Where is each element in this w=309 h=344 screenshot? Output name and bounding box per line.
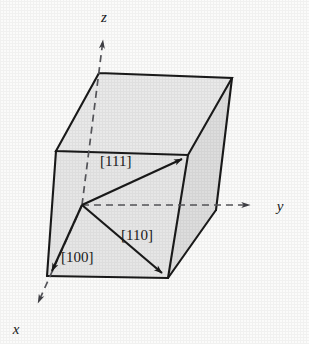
cube-solid bbox=[47, 73, 232, 278]
label-axis-z: z bbox=[100, 9, 107, 25]
label-direction-100: [100] bbox=[61, 249, 94, 265]
label-axis-y: y bbox=[275, 198, 284, 214]
label-direction-110: [110] bbox=[121, 227, 153, 243]
unit-cell-figure: [111] [110] [100] z y x bbox=[0, 0, 309, 344]
label-direction-111: [111] bbox=[100, 153, 131, 169]
label-axis-x: x bbox=[12, 321, 20, 337]
